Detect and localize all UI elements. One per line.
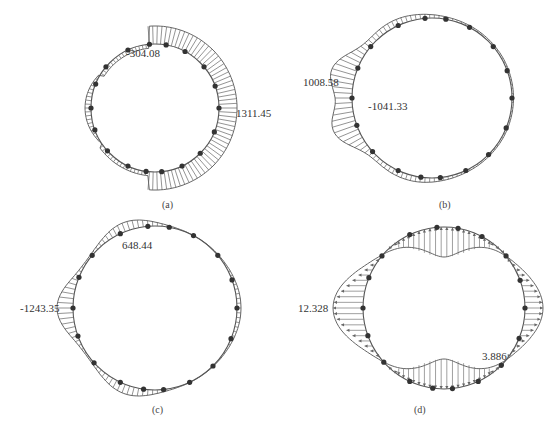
panel-c-label-max: 648.44: [122, 239, 153, 251]
panel-b-caption: (b): [439, 199, 451, 211]
panel-a-label-min: -304.08: [126, 47, 160, 59]
panel-d-diagram: [333, 225, 543, 391]
figure-canvas: -304.08 1311.45 1008.58 -1041.33 648.44 …: [0, 0, 559, 430]
panel-b-label-min: -1041.33: [368, 100, 408, 112]
panel-d-label-min: 3.886: [482, 350, 507, 362]
panel-b-label-max: 1008.58: [303, 76, 339, 88]
panel-b-diagram: [331, 14, 515, 182]
panel-c-caption: (c): [152, 404, 163, 416]
panel-d-label-max: 12.328: [298, 302, 329, 314]
panel-d-caption: (d): [414, 404, 426, 416]
panel-a-caption: (a): [162, 199, 173, 211]
panel-c-label-min: -1243.35: [20, 302, 60, 314]
panel-a-diagram: [85, 26, 237, 190]
panel-a-label-max: 1311.45: [236, 107, 272, 119]
